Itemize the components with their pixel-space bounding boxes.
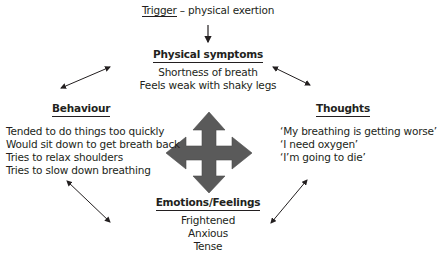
thoughts-line: ‘I’m going to die’: [280, 151, 437, 164]
trigger-separator: –: [177, 4, 188, 16]
emotions-line: Tense: [108, 240, 308, 253]
thoughts-heading-wrap: Thoughts: [316, 102, 370, 117]
thoughts-line: ‘I need oxygen’: [280, 138, 437, 151]
arrow-behaviour-physical-icon: [61, 67, 110, 88]
emotions-line: Frightened: [108, 214, 308, 227]
thoughts-line: ‘My breathing is getting worse’: [280, 125, 437, 138]
behaviour-line: Would sit down to get breath back: [6, 138, 180, 151]
physical-symptoms-line: Shortness of breath: [108, 66, 308, 79]
node-physical-symptoms: Physical symptoms Shortness of breath Fe…: [108, 48, 308, 92]
trigger-value: physical exertion: [188, 4, 274, 16]
behaviour-line: Tries to relax shoulders: [6, 151, 180, 164]
emotions-heading: Emotions/Feelings: [156, 196, 261, 211]
behaviour-line: Tries to slow down breathing: [6, 164, 180, 177]
behaviour-line: Tended to do things too quickly: [6, 125, 180, 138]
trigger-label: Trigger: [142, 4, 177, 17]
behaviour-heading: Behaviour: [52, 102, 110, 117]
node-thoughts: ‘My breathing is getting worse’ ‘I need …: [280, 125, 437, 164]
arrow-behaviour-emotions-icon: [67, 181, 110, 222]
thoughts-heading: Thoughts: [316, 102, 370, 117]
node-behaviour: Tended to do things too quickly Would si…: [6, 125, 180, 177]
node-emotions: Emotions/Feelings Frightened Anxious Ten…: [108, 196, 308, 253]
trigger-line: Trigger – physical exertion: [108, 4, 308, 17]
behaviour-heading-wrap: Behaviour: [52, 102, 110, 117]
physical-symptoms-heading: Physical symptoms: [153, 48, 263, 63]
emotions-line: Anxious: [108, 227, 308, 240]
physical-symptoms-line: Feels weak with shaky legs: [108, 79, 308, 92]
